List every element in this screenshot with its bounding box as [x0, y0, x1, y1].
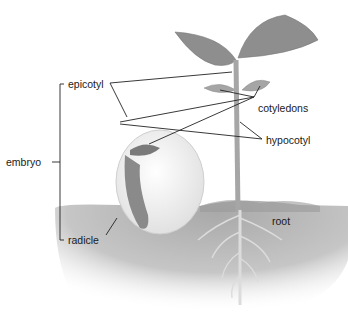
label-cotyledons: cotyledons: [258, 102, 308, 114]
illustration: [0, 0, 348, 321]
seed: [116, 130, 204, 234]
label-hypocotyl: hypocotyl: [266, 134, 310, 146]
label-embryo: embryo: [6, 156, 41, 168]
label-epicotyl: epicotyl: [68, 78, 104, 90]
soil: [55, 200, 348, 318]
diagram: embryo epicotyl radicle cotyledons hypoc…: [0, 0, 348, 321]
label-root: root: [272, 215, 290, 227]
label-radicle: radicle: [68, 234, 99, 246]
true-leaves: [175, 15, 318, 65]
